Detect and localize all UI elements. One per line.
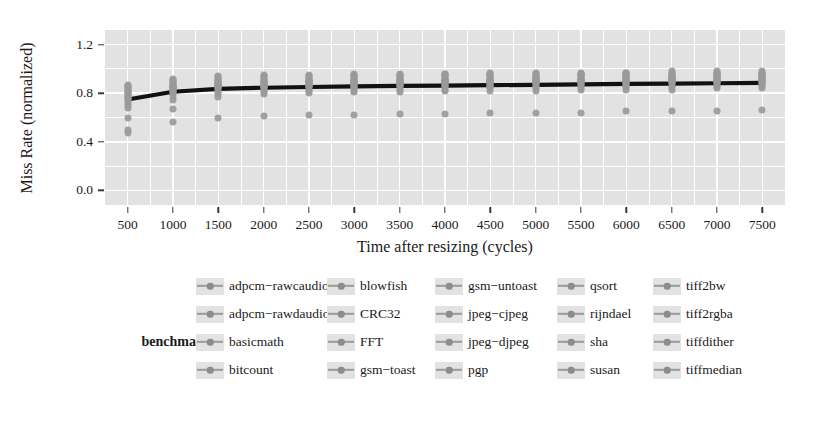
y-axis-tick-label: 0.8 [76, 85, 93, 101]
legend-key-dot [568, 311, 575, 318]
data-point [396, 70, 403, 77]
legend-key-dot [338, 339, 345, 346]
x-axis-tick-mark [263, 207, 264, 213]
x-axis-tick-label: 4000 [432, 217, 459, 233]
x-axis-tick-mark [172, 207, 173, 213]
legend-item-label: tiff2rgba [686, 306, 733, 322]
legend-key-dot [338, 283, 345, 290]
legend-key-icon [435, 306, 463, 323]
legend-item[interactable]: susan [557, 356, 653, 384]
data-point [124, 126, 131, 133]
data-point [487, 69, 494, 76]
legend-item-label: blowfish [360, 278, 407, 294]
data-point [623, 108, 630, 115]
legend-item[interactable]: sha [557, 328, 653, 356]
legend-item[interactable]: tiffdither [653, 328, 758, 356]
legend-item[interactable]: tiff2rgba [653, 300, 758, 328]
legend-key-icon [196, 306, 224, 323]
legend-item-label: rijndael [590, 306, 631, 322]
y-axis-title: Miss Rate (normalized) [18, 42, 36, 193]
legend-item[interactable]: jpeg−djpeg [435, 328, 557, 356]
data-point [170, 75, 177, 82]
plot-panel [105, 30, 785, 205]
legend-item-label: susan [590, 362, 620, 378]
data-point [351, 70, 358, 77]
data-point [396, 110, 403, 117]
data-point [442, 110, 449, 117]
legend-item[interactable]: gsm−untoast [435, 272, 557, 300]
legend-item[interactable]: pgp [435, 356, 557, 384]
y-axis-title-container: Miss Rate (normalized) [16, 30, 38, 205]
x-axis-tick-mark [626, 207, 627, 213]
data-point [759, 107, 766, 114]
legend-key-icon [557, 306, 585, 323]
x-axis-tick-label: 6000 [613, 217, 640, 233]
x-axis-tick-mark [399, 207, 400, 213]
data-point [215, 73, 222, 80]
data-point [170, 105, 177, 112]
data-point [668, 68, 675, 75]
legend-item-label: tiff2bw [686, 278, 726, 294]
legend-key-dot [207, 367, 214, 374]
legend-item[interactable]: bitcount [196, 356, 327, 384]
y-axis-tick-mark [98, 92, 104, 93]
legend-key-icon [557, 278, 585, 295]
data-point [306, 112, 313, 119]
legend-item[interactable]: basicmath [196, 328, 327, 356]
legend-key-dot [568, 367, 575, 374]
legend-key-icon [435, 278, 463, 295]
legend-item[interactable]: tiff2bw [653, 272, 758, 300]
data-point [124, 114, 131, 121]
y-axis-tick-mark [98, 141, 104, 142]
data-point [260, 71, 267, 78]
legend-key-icon [196, 278, 224, 295]
chart-figure: Miss Rate (normalized) 0.00.40.81.2 5001… [0, 0, 830, 428]
x-axis-tick-label: 7000 [704, 217, 731, 233]
data-point [714, 68, 721, 75]
legend-item[interactable]: gsm−toast [327, 356, 435, 384]
legend-columns: adpcm−rawcaudioadpcm−rawdaudiobasicmathb… [196, 272, 758, 384]
data-point [578, 109, 585, 116]
legend-item[interactable]: CRC32 [327, 300, 435, 328]
trend-line [105, 30, 785, 205]
y-axis-tick-label: 0.4 [76, 134, 93, 150]
legend-key-icon [435, 362, 463, 379]
legend-key-dot [207, 311, 214, 318]
legend-key-icon [653, 306, 681, 323]
legend-item[interactable]: qsort [557, 272, 653, 300]
legend-item-label: basicmath [229, 334, 284, 350]
legend-column: qsortrijndaelshasusan [557, 272, 653, 384]
legend-item[interactable]: blowfish [327, 272, 435, 300]
legend-item-label: CRC32 [360, 306, 401, 322]
x-axis-tick-label: 5000 [522, 217, 549, 233]
legend-key-dot [338, 367, 345, 374]
legend-key-icon [653, 334, 681, 351]
legend-key-dot [446, 311, 453, 318]
x-axis-tick-label: 7500 [749, 217, 776, 233]
data-point [170, 119, 177, 126]
data-point [124, 81, 131, 88]
legend-key-icon [327, 334, 355, 351]
legend-key-dot [338, 311, 345, 318]
data-point [578, 69, 585, 76]
legend-item[interactable]: FFT [327, 328, 435, 356]
legend-item[interactable]: jpeg−cjpeg [435, 300, 557, 328]
x-axis-tick-label: 3000 [341, 217, 368, 233]
legend-item[interactable]: rijndael [557, 300, 653, 328]
legend-item[interactable]: adpcm−rawcaudio [196, 272, 327, 300]
legend-title: benchmark [98, 334, 210, 350]
x-axis-tick-mark [716, 207, 717, 213]
data-point [668, 108, 675, 115]
x-axis-tick-label: 6500 [658, 217, 685, 233]
legend: benchmark adpcm−rawcaudioadpcm−rawdaudio… [0, 272, 830, 428]
legend-item-label: adpcm−rawcaudio [229, 278, 329, 294]
x-axis-tick-mark [308, 207, 309, 213]
x-axis-tick-label: 500 [118, 217, 138, 233]
y-axis-tick-label: 1.2 [76, 37, 93, 53]
legend-item-label: gsm−toast [360, 362, 416, 378]
legend-item[interactable]: tiffmedian [653, 356, 758, 384]
legend-item[interactable]: adpcm−rawdaudio [196, 300, 327, 328]
legend-key-icon [327, 306, 355, 323]
legend-column: gsm−untoastjpeg−cjpegjpeg−djpegpgp [435, 272, 557, 384]
legend-key-dot [568, 283, 575, 290]
